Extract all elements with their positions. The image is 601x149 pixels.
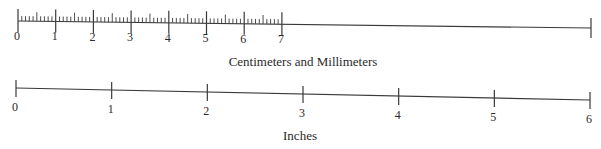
metric-ruler: 01234567 bbox=[14, 9, 591, 46]
inch-tick-label: 3 bbox=[299, 106, 305, 120]
metric-tick-label: 4 bbox=[165, 31, 171, 45]
metric-tick-label: 3 bbox=[127, 30, 133, 44]
metric-ruler-baseline bbox=[18, 21, 591, 28]
metric-tick-label: 5 bbox=[203, 31, 209, 45]
metric-ruler-caption: Centimeters and Millimeters bbox=[229, 54, 378, 69]
inch-ruler: 0123456 bbox=[12, 80, 592, 126]
ruler-diagram: 01234567 Centimeters and Millimeters 012… bbox=[0, 0, 601, 149]
metric-tick-label: 6 bbox=[240, 32, 246, 46]
ruler-diagram-canvas: 01234567 Centimeters and Millimeters 012… bbox=[0, 0, 601, 149]
inch-tick-label: 1 bbox=[108, 102, 114, 116]
metric-tick-label: 0 bbox=[14, 29, 20, 43]
metric-tick-label: 7 bbox=[278, 32, 284, 46]
inch-tick-label: 0 bbox=[12, 100, 18, 114]
inch-tick-label: 2 bbox=[203, 104, 209, 118]
metric-tick-label: 2 bbox=[89, 30, 95, 44]
inch-tick-label: 4 bbox=[395, 108, 401, 122]
inch-tick-label: 6 bbox=[586, 112, 592, 126]
inch-ruler-caption: Inches bbox=[283, 128, 317, 143]
inch-tick-label: 5 bbox=[490, 110, 496, 124]
metric-tick-label: 1 bbox=[52, 29, 58, 43]
